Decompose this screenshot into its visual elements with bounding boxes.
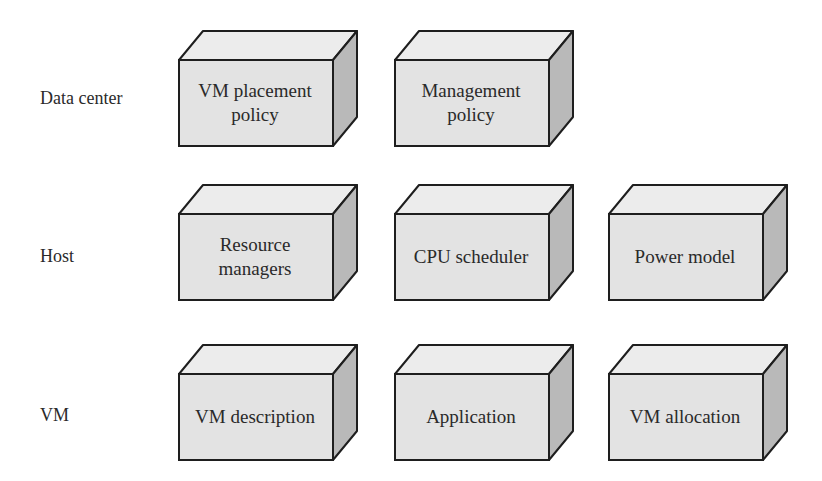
row-label-vm: VM [40,405,69,425]
box-cpu-scheduler: CPU scheduler [394,185,574,301]
box-management-policy: Management policy [394,31,574,147]
box-vm-allocation: VM allocation [608,345,788,461]
box-label: CPU scheduler [394,214,548,300]
box-application: Application [394,345,574,461]
box-power-model: Power model [608,185,788,301]
box-label: VM description [178,374,332,460]
box-vm-description: VM description [178,345,358,461]
box-resource-managers: Resource managers [178,185,358,301]
box-label: Application [394,374,548,460]
box-vm-placement-policy: VM placement policy [178,31,358,147]
box-label: Resource managers [178,214,332,300]
row-label-data-center: Data center [40,88,122,108]
box-label: Power model [608,214,762,300]
box-label: VM placement policy [178,60,332,146]
box-label: VM allocation [608,374,762,460]
row-label-host: Host [40,246,74,266]
box-label: Management policy [394,60,548,146]
